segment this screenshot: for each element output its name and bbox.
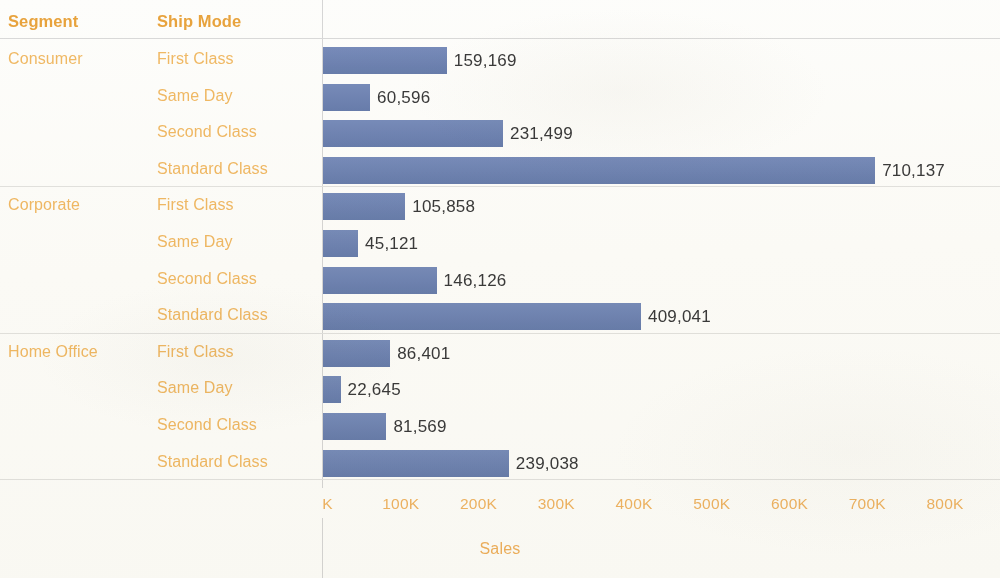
ship-mode-label[interactable]: Standard Class <box>157 160 268 178</box>
ship-mode-label[interactable]: Second Class <box>157 270 257 288</box>
segment-label[interactable]: Consumer <box>8 50 83 68</box>
ship-mode-label[interactable]: Second Class <box>157 123 257 141</box>
x-axis-tick-label: 800K <box>927 495 964 513</box>
bar[interactable] <box>323 120 503 147</box>
bar[interactable] <box>323 230 358 257</box>
bar-value-label: 409,041 <box>648 307 711 327</box>
bar[interactable] <box>323 340 390 367</box>
bar-value-label: 22,645 <box>348 380 401 400</box>
bar-value-label: 105,858 <box>412 197 475 217</box>
ship-mode-label[interactable]: First Class <box>157 343 234 361</box>
ship-mode-label[interactable]: Standard Class <box>157 453 268 471</box>
bar-value-label: 86,401 <box>397 344 450 364</box>
bar[interactable] <box>323 193 405 220</box>
bar[interactable] <box>323 84 370 111</box>
segment-label[interactable]: Home Office <box>8 343 98 361</box>
bar-value-label: 159,169 <box>454 51 517 71</box>
x-axis-tick-label: 200K <box>460 495 497 513</box>
x-axis-tick-label: 500K <box>693 495 730 513</box>
ship-mode-label[interactable]: Same Day <box>157 87 233 105</box>
column-header-segment[interactable]: Segment <box>8 12 78 31</box>
bar-value-label: 81,569 <box>393 417 446 437</box>
ship-mode-label[interactable]: Standard Class <box>157 306 268 324</box>
x-axis-tick-label: 400K <box>616 495 653 513</box>
bar[interactable] <box>323 376 341 403</box>
ship-mode-label[interactable]: Same Day <box>157 233 233 251</box>
bar-value-label: 710,137 <box>882 161 945 181</box>
ship-mode-label[interactable]: Same Day <box>157 379 233 397</box>
x-axis-tick-label: 300K <box>538 495 575 513</box>
ship-mode-label[interactable]: First Class <box>157 196 234 214</box>
bar[interactable] <box>323 413 386 440</box>
ship-mode-label[interactable]: First Class <box>157 50 234 68</box>
bar[interactable] <box>323 267 437 294</box>
column-header-ship-mode[interactable]: Ship Mode <box>157 12 241 31</box>
x-axis-tick-label: 100K <box>382 495 419 513</box>
bar-value-label: 231,499 <box>510 124 573 144</box>
bar-value-label: 239,038 <box>516 454 579 474</box>
axis-tick-clip-mask <box>0 488 323 518</box>
segment-separator-rule <box>0 333 1000 334</box>
chart-page: Segment Ship Mode ConsumerFirst Class159… <box>0 0 1000 578</box>
bar[interactable] <box>323 47 447 74</box>
ship-mode-label[interactable]: Second Class <box>157 416 257 434</box>
bar-value-label: 146,126 <box>444 271 507 291</box>
x-axis-tick-label: 700K <box>849 495 886 513</box>
x-axis-tick-label: 600K <box>771 495 808 513</box>
segment-label[interactable]: Corporate <box>8 196 80 214</box>
bar[interactable] <box>323 303 641 330</box>
segment-separator-rule <box>0 479 1000 480</box>
segment-separator-rule <box>0 186 1000 187</box>
bar-value-label: 45,121 <box>365 234 418 254</box>
bar-value-label: 60,596 <box>377 88 430 108</box>
header-rule <box>0 38 1000 39</box>
bar[interactable] <box>323 450 509 477</box>
x-axis-title: Sales <box>0 540 1000 558</box>
bar[interactable] <box>323 157 875 184</box>
